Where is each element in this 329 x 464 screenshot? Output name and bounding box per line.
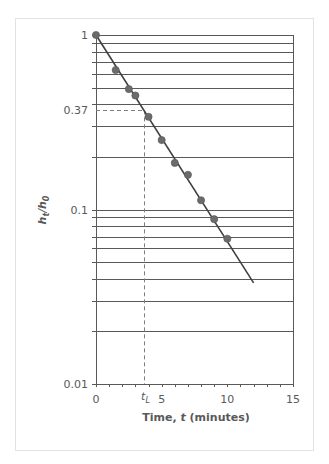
data-point [112, 66, 119, 73]
x-tick-label: 5 [158, 393, 165, 406]
x-tick-label: 15 [286, 393, 300, 406]
chart-plot: Time, t (minutes) ht/h0 05101510.370.10.… [0, 0, 329, 464]
t-l-annotation: tL [141, 390, 150, 405]
data-point [211, 216, 218, 223]
gridlines [92, 36, 293, 332]
data-point [158, 136, 165, 143]
y-tick-label: 0.01 [64, 378, 89, 391]
x-tick-label: 0 [93, 393, 100, 406]
data-point [132, 92, 139, 99]
y-tick-label: 0.1 [71, 204, 89, 217]
data-point [92, 31, 99, 38]
fit-line [96, 35, 254, 283]
data-point [224, 235, 231, 242]
x-axis-title: Time, t (minutes) [142, 411, 250, 424]
x-tick-label: 10 [220, 393, 234, 406]
y-axis-title: ht/h0 [36, 195, 51, 224]
data-point [125, 85, 132, 92]
data-point [145, 113, 152, 120]
data-point [197, 197, 204, 204]
y-tick-label: 1 [81, 29, 88, 42]
data-point [184, 171, 191, 178]
annotations [96, 110, 145, 384]
data-point [171, 159, 178, 166]
y-tick-label: 0.37 [64, 104, 89, 117]
